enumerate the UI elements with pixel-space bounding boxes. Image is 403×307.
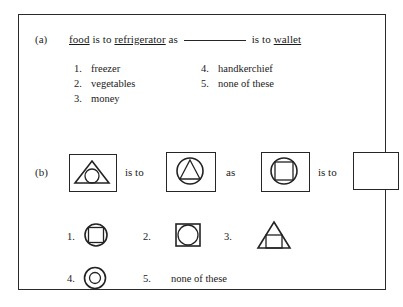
stem-connector-1: is to [92,33,111,45]
option-a-3[interactable]: 3.money [74,93,120,104]
stem-answer-blank[interactable] [184,40,246,41]
triangle-in-circle-icon [167,153,213,189]
part-b-connector-as: as [226,166,235,178]
part-b-figure-3 [261,152,310,192]
option-a-5[interactable]: 5.none of these [201,78,274,89]
option-a-3-label: money [91,93,120,104]
stem-connector-3: is to [252,33,271,45]
option-b-4-number: 4. [67,273,75,284]
option-b-1-number: 1. [67,231,75,242]
option-b-4[interactable] [81,264,109,292]
circle-in-triangle-icon [70,155,114,189]
option-b-5-label[interactable]: none of these [171,273,227,284]
square-in-circle-icon [262,153,307,189]
option-b-1[interactable] [81,220,111,250]
circle-in-circle-option-icon [81,264,109,292]
part-b-connector-is-to-2: is to [318,166,337,178]
part-b-figure-answer-blank[interactable] [353,152,399,190]
option-a-2-number: 2. [74,78,91,89]
stem-term-food: food [69,33,90,45]
square-in-triangle-option-icon [255,218,293,252]
option-a-5-number: 5. [201,78,218,89]
option-b-2[interactable] [171,219,205,251]
worksheet-page: (a) food is to refrigerator as is to wal… [0,0,403,307]
part-b-figure-2 [166,152,216,192]
option-a-5-label: none of these [218,78,274,89]
option-a-4[interactable]: 4.handkerchief [201,63,273,74]
square-in-circle-option-icon [81,220,111,250]
part-a-stem: food is to refrigerator as is to wallet [69,33,301,45]
part-a-label: (a) [35,33,47,45]
part-b-label: (b) [35,166,48,178]
stem-term-refrigerator: refrigerator [114,33,165,45]
option-b-2-number: 2. [143,231,151,242]
option-a-1-label: freezer [91,63,120,74]
option-a-4-number: 4. [201,63,218,74]
option-a-4-label: handkerchief [218,63,273,74]
part-b-figure-1 [69,154,117,192]
option-b-3[interactable] [255,218,293,252]
stem-term-wallet: wallet [274,33,301,45]
option-a-2[interactable]: 2.vegetables [74,78,135,89]
circle-in-square-option-icon [171,219,205,251]
option-a-2-label: vegetables [91,78,135,89]
option-a-3-number: 3. [74,93,91,104]
stem-connector-2: as [169,33,178,45]
option-a-1[interactable]: 1.freezer [74,63,120,74]
option-b-5-number: 5. [143,273,151,284]
question-frame: (a) food is to refrigerator as is to wal… [18,14,386,290]
option-a-1-number: 1. [74,63,91,74]
option-b-3-number: 3. [224,231,232,242]
part-b-connector-is-to-1: is to [125,166,144,178]
